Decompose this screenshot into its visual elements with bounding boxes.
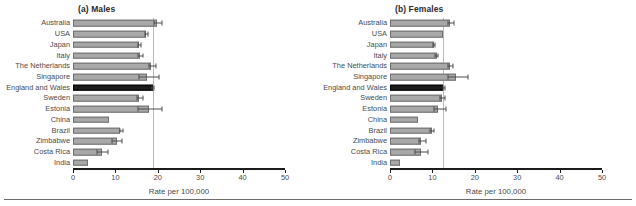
- error-bar-cap-low: [154, 21, 155, 26]
- bar: [390, 63, 450, 70]
- plot-area: AustraliaUSAJapanItalyThe NetherlandsSin…: [390, 18, 602, 168]
- x-axis-title: Rate per 100,000: [466, 187, 526, 196]
- category-label: Estonia: [45, 105, 70, 112]
- category-label: The Netherlands: [15, 63, 70, 70]
- category-label: Australia: [358, 20, 387, 27]
- error-bar-cap-low: [138, 53, 139, 58]
- error-bar-cap-low: [447, 74, 448, 79]
- category-label: India: [54, 159, 70, 166]
- bar: [390, 20, 450, 27]
- bar: [73, 63, 151, 70]
- error-bar-cap-high: [435, 42, 436, 47]
- error-bar-cap-low: [145, 32, 146, 37]
- category-label: Australia: [41, 20, 70, 27]
- error-bar-cap-low: [447, 21, 448, 26]
- error-bar-cap-low: [139, 74, 140, 79]
- x-tick-label: 10: [111, 174, 119, 181]
- error-bar-cap-low: [112, 139, 113, 144]
- error-bar-cap-high: [446, 107, 447, 112]
- reference-line: [443, 18, 444, 168]
- category-label: Singapore: [36, 73, 70, 80]
- chart-panel-males: (a) MalesAustraliaUSAJapanItalyThe Nethe…: [0, 0, 318, 206]
- error-bar-cap-high: [454, 21, 455, 26]
- error-bar-cap-low: [448, 64, 449, 69]
- category-label: Italy: [56, 52, 70, 59]
- bar: [73, 31, 146, 38]
- reference-line: [153, 18, 154, 168]
- x-tick-label: 10: [428, 174, 436, 181]
- bar: [73, 127, 120, 134]
- bar: [73, 84, 153, 91]
- bar: [390, 31, 443, 38]
- category-label: China: [51, 116, 70, 123]
- bar: [390, 95, 442, 102]
- error-bar-cap-high: [445, 96, 446, 101]
- bar: [390, 52, 437, 59]
- x-tick-label: 20: [471, 174, 479, 181]
- category-label: Zimbabwe: [36, 138, 70, 145]
- chart-title: (a) Males: [78, 4, 115, 14]
- error-bar-cap-high: [142, 53, 143, 58]
- bar: [73, 116, 109, 123]
- category-label: Sweden: [43, 95, 70, 102]
- bar: [73, 52, 140, 59]
- error-bar: [434, 109, 446, 110]
- error-bar-cap-low: [120, 128, 121, 133]
- error-bar-cap-high: [438, 53, 439, 58]
- bar: [390, 159, 400, 166]
- error-bar-cap-low: [430, 128, 431, 133]
- figure-container: (a) MalesAustraliaUSAJapanItalyThe Nethe…: [0, 0, 636, 206]
- bar: [73, 95, 139, 102]
- category-label: India: [371, 159, 387, 166]
- error-bar-cap-high: [444, 85, 445, 90]
- category-label: Sweden: [360, 95, 387, 102]
- error-bar-cap-low: [442, 85, 443, 90]
- x-tick-label: 50: [598, 174, 606, 181]
- error-bar-cap-low: [440, 96, 441, 101]
- error-bar-cap-high: [155, 64, 156, 69]
- bar: [390, 138, 421, 145]
- bar: [390, 106, 438, 113]
- category-label: Costa Rica: [34, 148, 70, 155]
- x-tick-label: 40: [555, 174, 563, 181]
- error-bar-cap-high: [121, 139, 122, 144]
- error-bar-cap-low: [435, 53, 436, 58]
- category-label: England and Wales: [6, 84, 70, 91]
- error-bar: [138, 109, 161, 110]
- category-label: The Netherlands: [332, 63, 387, 70]
- x-tick-label: 30: [196, 174, 204, 181]
- error-bar: [448, 76, 468, 77]
- error-bar: [97, 151, 108, 152]
- category-label: Estonia: [362, 105, 387, 112]
- error-bar-cap-low: [148, 64, 149, 69]
- x-axis: [73, 168, 285, 170]
- error-bar-cap-high: [154, 85, 155, 90]
- bar: [73, 159, 88, 166]
- bar: [390, 84, 443, 91]
- x-axis: [390, 168, 602, 170]
- bar: [390, 116, 418, 123]
- category-label: Italy: [373, 52, 387, 59]
- error-bar-cap-low: [151, 85, 152, 90]
- category-label: USA: [55, 30, 70, 37]
- category-label: USA: [372, 30, 387, 37]
- chart-title: (b) Females: [395, 4, 443, 14]
- error-bar-cap-low: [136, 96, 137, 101]
- category-label: Zimbabwe: [353, 138, 387, 145]
- x-tick-label: 20: [154, 174, 162, 181]
- error-bar-cap-high: [162, 21, 163, 26]
- chart-panel-females: (b) FemalesAustraliaUSAJapanItalyThe Net…: [318, 0, 636, 206]
- error-bar-cap-high: [427, 149, 428, 154]
- error-bar-cap-high: [159, 74, 160, 79]
- category-label: Brazil: [369, 127, 387, 134]
- error-bar: [139, 76, 159, 77]
- bar: [390, 127, 432, 134]
- x-tick-label: 30: [513, 174, 521, 181]
- category-label: Japan: [367, 41, 387, 48]
- bar: [390, 41, 434, 48]
- category-label: Japan: [50, 41, 70, 48]
- x-tick-label: 40: [238, 174, 246, 181]
- error-bar-cap-low: [418, 139, 419, 144]
- error-bar-cap-high: [453, 64, 454, 69]
- x-tick-label: 50: [281, 174, 289, 181]
